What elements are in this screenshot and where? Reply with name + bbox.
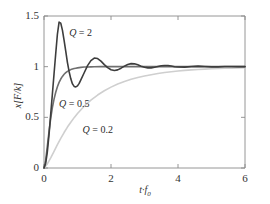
x-axis-title: t·f0 [115,184,175,198]
x-tick-label: 6 [230,173,260,184]
y-axis-title-text: x[F/k] [12,83,23,109]
y-tick-label: 1 [34,61,40,72]
series-annotation-q-0p5: Q = 0.5 [59,99,89,109]
y-axis-title: x[F/k] [12,66,23,126]
y-tick-label: 1.5 [25,10,39,21]
y-tick-label: 0.5 [25,111,39,122]
series-annotation-q-0p2: Q = 0.2 [83,125,113,135]
x-axis-title-subscript: 0 [147,190,151,198]
y-tick-label: 0 [34,162,40,173]
series-line-q-0p2 [44,68,245,168]
series-annotation-value: = 0.2 [90,124,113,135]
x-tick-label: 0 [29,173,59,184]
series-line-q-2 [44,22,245,168]
series-annotation-value: = 0.5 [66,98,89,109]
x-tick-label: 4 [163,173,193,184]
series-annotation-q-2: Q = 2 [69,28,92,38]
figure-step-response: 00.511.5 0246 x[F/k] t·f0 Q = 2Q = 0.5Q … [0,0,270,204]
axes [44,16,245,168]
series-annotation-symbol: Q [83,124,90,135]
series-annotation-value: = 2 [76,27,92,38]
x-tick-label: 2 [96,173,126,184]
data-series [44,22,245,168]
